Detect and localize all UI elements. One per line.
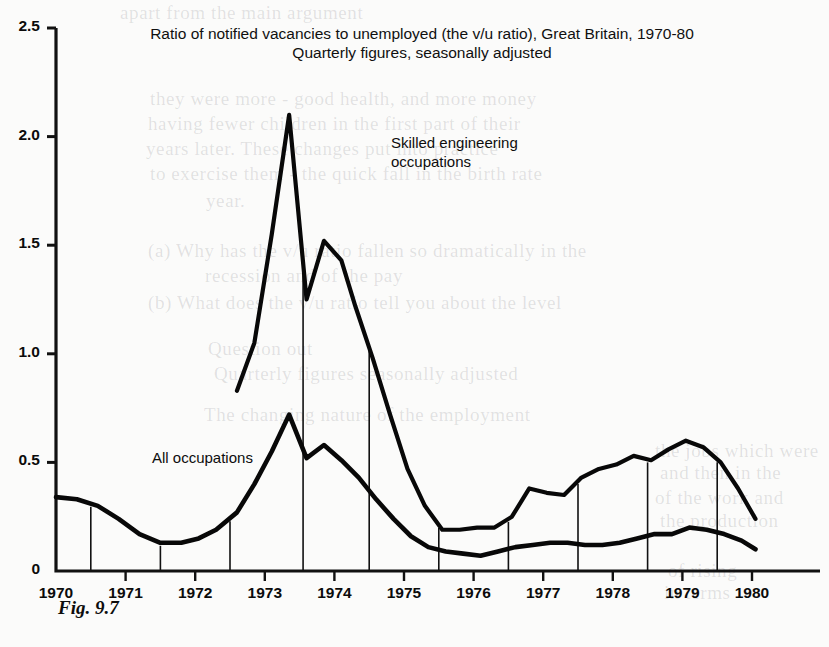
series-line-all-occupations — [56, 415, 755, 556]
chart-title-line-1: Ratio of notified vacancies to unemploye… — [92, 24, 752, 43]
x-tick-label: 1975 — [369, 584, 439, 602]
x-tick-label: 1974 — [299, 584, 369, 602]
quarter-marker-lines — [91, 266, 717, 571]
x-tick-label: 1972 — [160, 584, 230, 602]
chart-title-line-2: Quarterly figures, seasonally adjusted — [92, 43, 752, 62]
y-tick-label: 0 — [0, 560, 40, 578]
series-line-skilled-engineering-occupations — [237, 115, 756, 530]
x-tick-label: 1978 — [578, 584, 648, 602]
x-tick-label: 1979 — [647, 584, 717, 602]
x-tick-label: 1976 — [439, 584, 509, 602]
figure-caption: Fig. 9.7 — [58, 597, 119, 619]
x-tick-label: 1977 — [508, 584, 578, 602]
axis-lines — [56, 28, 820, 571]
x-tick-label: 1980 — [717, 584, 787, 602]
figure-container: apart from the main argumentthey were mo… — [0, 0, 829, 647]
y-tick-label: 1.0 — [0, 343, 40, 361]
chart-title: Ratio of notified vacancies to unemploye… — [92, 24, 752, 62]
annotation-skilled-engineering-occupations: Skilled engineering occupations — [391, 133, 518, 171]
chart-plot-area — [0, 0, 829, 647]
annotation-all-occupations: All occupations — [152, 448, 253, 467]
x-tick-label: 1973 — [230, 584, 300, 602]
y-tick-label: 0.5 — [0, 451, 40, 469]
y-tick-label: 2.0 — [0, 126, 40, 144]
y-tick-label: 1.5 — [0, 234, 40, 252]
y-tick-label: 2.5 — [0, 17, 40, 35]
